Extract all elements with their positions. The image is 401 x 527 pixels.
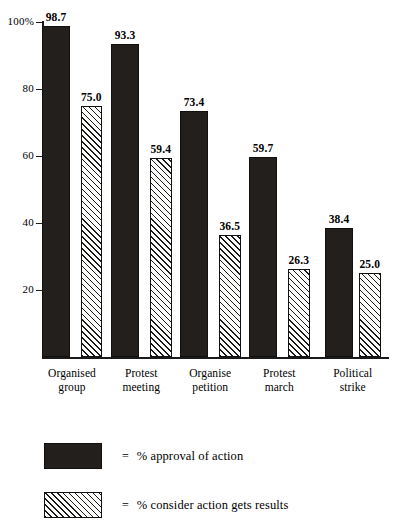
- legend-label: % approval of action: [137, 450, 243, 463]
- legend-swatch-approval: [44, 443, 102, 469]
- y-axis-tick-label: 80: [23, 83, 34, 94]
- legend-equals-sign: =: [122, 450, 129, 462]
- bar-value-label-approval: 38.4: [317, 213, 361, 225]
- bar-value-label-approval: 93.3: [103, 29, 147, 41]
- bar-results: [359, 273, 381, 357]
- bar-value-label-results: 75.0: [71, 91, 113, 103]
- legend-entry: =% consider action gets results: [44, 492, 288, 518]
- y-axis-tick-label: 40: [23, 217, 34, 228]
- bar-results: [288, 269, 310, 357]
- bar-chart: 100%80604020 98.775.093.359.473.436.559.…: [0, 0, 401, 527]
- bar-approval: [42, 26, 70, 357]
- bar-value-label-results: 36.5: [209, 220, 251, 232]
- legend-label: % consider action gets results: [137, 499, 289, 512]
- x-axis-category-label: Politicalstrike: [308, 366, 398, 394]
- bar-results: [81, 106, 103, 357]
- bar-value-label-results: 26.3: [278, 254, 320, 266]
- bar-results: [150, 158, 172, 357]
- y-axis-tick-label: 100%: [8, 16, 34, 27]
- y-axis-tick-label: 60: [23, 150, 34, 161]
- bar-value-label-results: 25.0: [349, 258, 391, 270]
- bar-value-label-approval: 73.4: [172, 96, 216, 108]
- bar-value-label-approval: 98.7: [34, 11, 78, 23]
- bar-results: [219, 235, 241, 357]
- category-label-line2: strike: [308, 380, 398, 394]
- bar-value-label-results: 59.4: [140, 143, 182, 155]
- category-label-line1: Political: [308, 366, 398, 380]
- bar-approval: [325, 228, 353, 357]
- x-axis-line: [42, 357, 389, 359]
- bar-approval: [249, 157, 277, 357]
- legend-equals-sign: =: [122, 499, 129, 511]
- y-axis-tick-label: 20: [23, 284, 34, 295]
- bar-approval: [111, 44, 139, 357]
- bar-approval: [180, 111, 208, 357]
- legend-swatch-results: [44, 492, 102, 518]
- legend-entry: =% approval of action: [44, 443, 243, 469]
- bar-value-label-approval: 59.7: [241, 142, 285, 154]
